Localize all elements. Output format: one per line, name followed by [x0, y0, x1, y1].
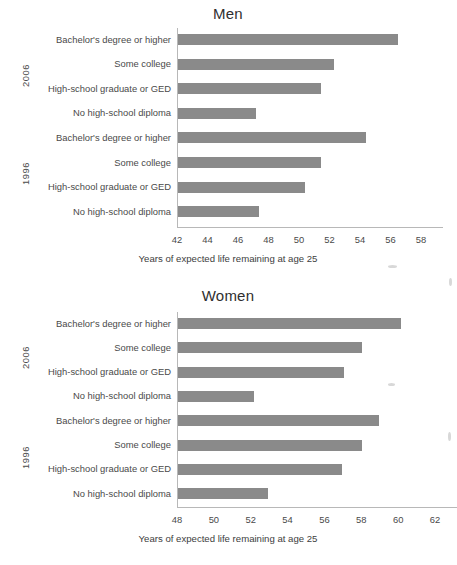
- bar-row: Bachelor's degree or higher: [178, 415, 379, 426]
- x-axis-title-women: Years of expected life remaining at age …: [0, 533, 456, 544]
- bar-category-label: Some college: [114, 158, 171, 167]
- bar-category-label: Bachelor's degree or higher: [56, 416, 171, 425]
- bar-category-label: Bachelor's degree or higher: [56, 35, 171, 44]
- bar-category-label: Some college: [114, 440, 171, 449]
- bar-category-label: High-school graduate or GED: [48, 182, 171, 191]
- bar: [178, 34, 398, 45]
- x-axis-tick-label: 46: [233, 228, 243, 245]
- bar-row: High-school graduate or GED: [178, 182, 305, 193]
- chart-title-women: Women: [0, 287, 456, 304]
- scan-speck: [388, 265, 397, 268]
- bar-row: High-school graduate or GED: [178, 367, 344, 378]
- x-axis-tick-label: 56: [385, 228, 395, 245]
- bar-category-label: Some college: [114, 343, 171, 352]
- bar-row: Some college: [178, 342, 362, 353]
- bar-row: No high-school diploma: [178, 488, 268, 499]
- bar-row: No high-school diploma: [178, 108, 256, 119]
- bar: [178, 108, 256, 119]
- bar-row: No high-school diploma: [178, 206, 259, 217]
- bar-category-label: High-school graduate or GED: [48, 84, 171, 93]
- bar-row: Bachelor's degree or higher: [178, 34, 398, 45]
- bar-row: Some college: [178, 157, 321, 168]
- x-axis-title-men: Years of expected life remaining at age …: [0, 253, 456, 264]
- bar-row: Some college: [178, 440, 362, 451]
- group-label-men-2006: 2006: [20, 64, 31, 87]
- x-axis-tick-label: 52: [245, 508, 255, 525]
- bar-category-label: Some college: [114, 59, 171, 68]
- group-label-women-1996: 1996: [20, 446, 31, 469]
- chart-title-men: Men: [0, 5, 456, 22]
- x-axis-tick-label: 60: [393, 508, 403, 525]
- x-axis-tick-label: 52: [324, 228, 334, 245]
- scan-speck: [448, 432, 451, 441]
- plot-area-men: Bachelor's degree or higherSome collegeH…: [177, 28, 421, 228]
- bar: [178, 440, 362, 451]
- bar: [178, 206, 259, 217]
- bar-category-label: No high-school diploma: [73, 109, 171, 118]
- x-axis-tick-label: 50: [209, 508, 219, 525]
- bar-row: High-school graduate or GED: [178, 464, 342, 475]
- x-axis-tick-label: 48: [172, 508, 182, 525]
- scan-speck: [388, 383, 395, 386]
- scan-speck: [449, 278, 452, 286]
- bar-row: Bachelor's degree or higher: [178, 132, 366, 143]
- x-axis-tick-label: 54: [282, 508, 292, 525]
- bar-category-label: Bachelor's degree or higher: [56, 319, 171, 328]
- x-axis-line-men: [177, 227, 443, 228]
- bar-row: Bachelor's degree or higher: [178, 318, 401, 329]
- bar-category-label: No high-school diploma: [73, 207, 171, 216]
- bar: [178, 59, 334, 70]
- bar-row: Some college: [178, 59, 334, 70]
- bar: [178, 182, 305, 193]
- group-label-women-2006: 2006: [20, 346, 31, 369]
- bar: [178, 367, 344, 378]
- plot-area-women: Bachelor's degree or higherSome collegeH…: [177, 312, 435, 508]
- bar: [178, 157, 321, 168]
- x-axis-tick-label: 50: [294, 228, 304, 245]
- x-axis-tick-label: 48: [263, 228, 273, 245]
- x-axis-tick-label: 54: [355, 228, 365, 245]
- x-axis-tick-label: 42: [172, 228, 182, 245]
- x-axis-tick-label: 58: [356, 508, 366, 525]
- bar: [178, 318, 401, 329]
- bar: [178, 132, 366, 143]
- bar: [178, 342, 362, 353]
- bar: [178, 391, 254, 402]
- x-axis-tick-label: 44: [202, 228, 212, 245]
- bar: [178, 83, 321, 94]
- bar-row: No high-school diploma: [178, 391, 254, 402]
- bar-category-label: Bachelor's degree or higher: [56, 133, 171, 142]
- bar-category-label: High-school graduate or GED: [48, 465, 171, 474]
- group-label-men-1996: 1996: [20, 162, 31, 185]
- x-axis-tick-label: 58: [416, 228, 426, 245]
- bar-category-label: No high-school diploma: [73, 392, 171, 401]
- bar: [178, 488, 268, 499]
- bar: [178, 464, 342, 475]
- bar-row: High-school graduate or GED: [178, 83, 321, 94]
- bar-category-label: High-school graduate or GED: [48, 367, 171, 376]
- x-axis-tick-label: 62: [430, 508, 440, 525]
- bar: [178, 415, 379, 426]
- x-axis-tick-label: 56: [319, 508, 329, 525]
- chart-panel-men: Men 2006 1996 Bachelor's degree or highe…: [0, 0, 456, 285]
- chart-panel-women: Women Bachelor's degree or higherSome co…: [0, 285, 456, 565]
- bar-category-label: No high-school diploma: [73, 489, 171, 498]
